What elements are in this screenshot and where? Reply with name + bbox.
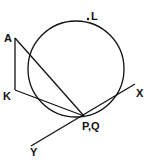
label-x: X bbox=[136, 87, 144, 99]
label-k: K bbox=[3, 90, 11, 102]
chord-k-p bbox=[15, 90, 84, 116]
label-a: A bbox=[4, 32, 12, 44]
geometry-diagram: A K L P,Q X Y bbox=[0, 0, 148, 160]
chord-a-p bbox=[15, 38, 84, 116]
label-pq: P,Q bbox=[82, 120, 100, 132]
label-l: L bbox=[91, 10, 98, 22]
label-y: Y bbox=[30, 146, 38, 158]
point-l-marker bbox=[87, 18, 89, 20]
tangent-line-xy bbox=[31, 84, 135, 146]
